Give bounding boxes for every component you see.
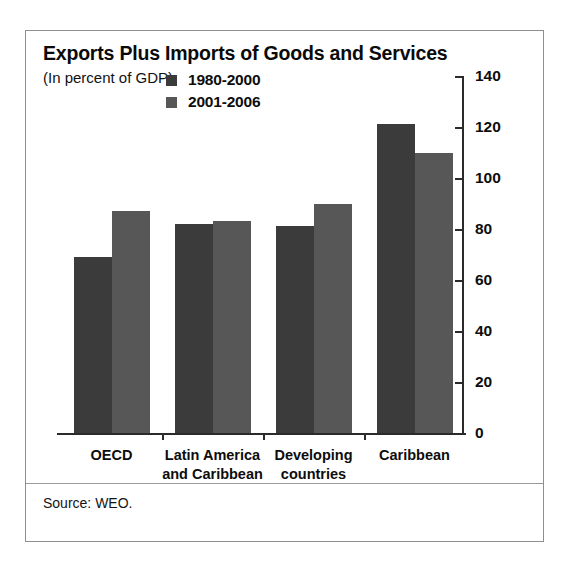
y-axis-tick xyxy=(455,229,463,231)
y-axis-tick-label: 100 xyxy=(475,169,501,187)
category-label-3: Caribbean xyxy=(364,446,465,465)
source-divider xyxy=(26,483,543,484)
bar-1-3[interactable] xyxy=(415,153,453,434)
category-label-1: Latin America and Caribbean xyxy=(162,446,263,484)
category-label-0: OECD xyxy=(61,446,162,465)
bar-0-2[interactable] xyxy=(276,226,314,433)
y-axis-tick xyxy=(455,178,463,180)
plot-area: 020406080100120140 OECDLatin America and… xyxy=(57,71,492,439)
bar-1-2[interactable] xyxy=(314,204,352,434)
y-axis-tick-label: 60 xyxy=(475,271,492,289)
bar-1-0[interactable] xyxy=(112,211,150,433)
bar-1-1[interactable] xyxy=(213,221,251,433)
y-axis-tick xyxy=(455,127,463,129)
x-axis-tick xyxy=(364,433,366,440)
y-axis-tick-label: 80 xyxy=(475,220,492,238)
y-axis-tick xyxy=(455,382,463,384)
y-axis-tick-label: 120 xyxy=(475,118,501,136)
y-axis-tick xyxy=(455,433,463,435)
y-axis-tick-label: 0 xyxy=(475,424,484,442)
y-axis-tick-label: 20 xyxy=(475,373,492,391)
x-axis-tick xyxy=(263,433,265,440)
y-axis-tick xyxy=(455,76,463,78)
y-axis-tick xyxy=(455,331,463,333)
bar-0-1[interactable] xyxy=(175,224,213,433)
bar-0-3[interactable] xyxy=(377,124,415,433)
y-axis-tick-label: 40 xyxy=(475,322,492,340)
y-axis-tick-label: 140 xyxy=(475,67,501,85)
y-axis-tick xyxy=(455,280,463,282)
bar-0-0[interactable] xyxy=(74,257,112,433)
figure-frame: Exports Plus Imports of Goods and Servic… xyxy=(25,30,544,542)
x-axis-tick xyxy=(162,433,164,440)
x-axis-line xyxy=(57,433,466,435)
page-title: Exports Plus Imports of Goods and Servic… xyxy=(43,42,447,65)
category-label-2: Developing countries xyxy=(263,446,364,484)
source-note: Source: WEO. xyxy=(43,495,132,511)
